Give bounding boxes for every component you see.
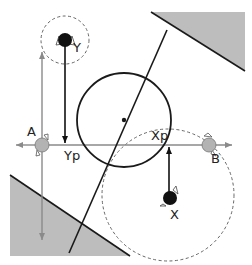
label-a: A	[27, 125, 36, 138]
label-yp: Yp	[64, 149, 80, 162]
diagram-canvas: A B Y X Yp Xp	[0, 0, 252, 265]
label-b: B	[211, 152, 220, 165]
diagram-svg	[0, 0, 252, 265]
label-y: Y	[73, 41, 81, 54]
wall-bottom-left	[10, 175, 130, 256]
wall-top-right	[151, 12, 245, 71]
center-dot	[122, 118, 126, 122]
label-xp: Xp	[151, 129, 168, 142]
label-x: X	[170, 208, 179, 221]
